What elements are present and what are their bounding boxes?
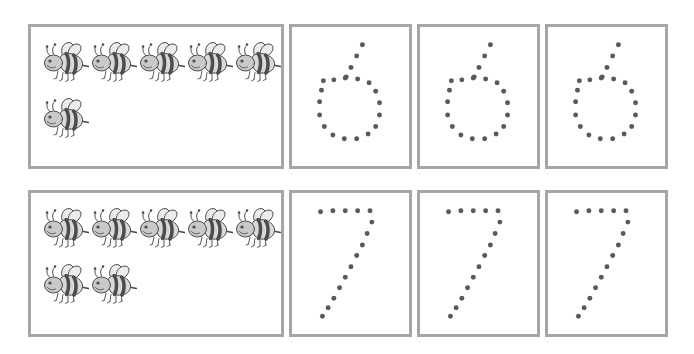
bee-icon: [40, 205, 89, 249]
dotted-numeral-6: [420, 27, 537, 166]
bee-line: [40, 261, 136, 305]
bee-icon: [40, 261, 89, 305]
bee-icon: [88, 261, 137, 305]
dotted-numeral-6: [548, 27, 665, 166]
bee-icon: [232, 205, 281, 249]
worksheet-row-6: [28, 24, 668, 169]
number-tracing-box[interactable]: [545, 190, 668, 337]
bee-icon: [88, 39, 137, 83]
bee-line: [40, 95, 88, 139]
number-tracing-box[interactable]: [417, 190, 540, 337]
bee-icon: [40, 39, 89, 83]
dotted-numeral-7: [292, 193, 409, 334]
number-tracing-box[interactable]: [417, 24, 540, 169]
bee-icon: [232, 39, 281, 83]
bee-icon: [88, 205, 137, 249]
dotted-numeral-7: [548, 193, 665, 334]
bee-icon: [184, 205, 233, 249]
bee-line: [40, 39, 280, 83]
dotted-numeral-6: [292, 27, 409, 166]
number-tracing-box[interactable]: [545, 24, 668, 169]
bee-count-panel: [28, 190, 284, 337]
dotted-numeral-7: [420, 193, 537, 334]
worksheet-row-7: [28, 190, 668, 337]
worksheet-page: [0, 0, 694, 354]
bee-count-panel: [28, 24, 284, 169]
number-tracing-box[interactable]: [289, 190, 412, 337]
number-tracing-box[interactable]: [289, 24, 412, 169]
bee-icon: [136, 205, 185, 249]
bee-icon: [184, 39, 233, 83]
bee-icon: [136, 39, 185, 83]
bee-line: [40, 205, 280, 249]
bee-icon: [40, 95, 89, 139]
